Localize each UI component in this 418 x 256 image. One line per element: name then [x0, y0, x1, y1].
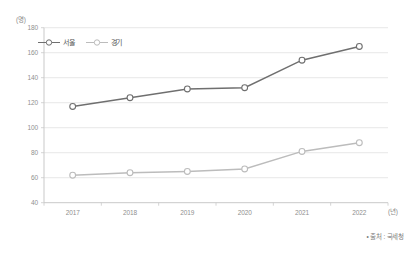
data-point-marker[interactable] [184, 169, 190, 175]
legend-marker-seoul-icon [38, 38, 60, 47]
series-line-seoul [73, 46, 360, 106]
data-point-marker[interactable] [127, 95, 133, 101]
chart-legend: 서울 경기 [38, 37, 122, 47]
legend-label-seoul: 서울 [63, 37, 75, 47]
data-point-marker[interactable] [70, 172, 76, 178]
legend-label-gyeonggi: 경기 [111, 37, 123, 47]
series-line-gyeonggi [73, 143, 360, 176]
line-chart: (명) (년) 180160140120100806040 2017201820… [0, 0, 418, 256]
data-point-marker[interactable] [356, 44, 362, 50]
data-point-marker[interactable] [299, 57, 305, 63]
data-point-marker[interactable] [242, 85, 248, 91]
data-point-marker[interactable] [242, 166, 248, 172]
data-point-marker[interactable] [356, 140, 362, 146]
data-point-marker[interactable] [70, 104, 76, 110]
source-note: • 출처 : 국세청 [367, 231, 405, 241]
data-point-marker[interactable] [127, 170, 133, 176]
data-point-marker[interactable] [299, 149, 305, 155]
data-point-marker[interactable] [184, 86, 190, 92]
legend-marker-gyeonggi-icon [86, 38, 108, 47]
legend-item-gyeonggi[interactable]: 경기 [86, 37, 123, 47]
legend-item-seoul[interactable]: 서울 [38, 37, 75, 47]
